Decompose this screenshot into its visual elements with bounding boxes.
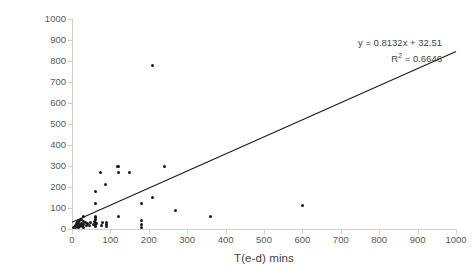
- x-tick-label: 700: [324, 234, 358, 245]
- x-tick-label: 400: [209, 234, 243, 245]
- x-axis-title: T(e-d) mins: [72, 252, 456, 264]
- x-tick-label: 300: [170, 234, 204, 245]
- regression-annotation: y = 0.8132x + 32.51 R2 = 0.6646: [296, 36, 442, 65]
- r-squared-value: = 0.6646: [402, 53, 442, 64]
- x-tick-label: 800: [362, 234, 396, 245]
- x-tick-label: 500: [247, 234, 281, 245]
- x-tick-label: 1000: [439, 234, 473, 245]
- x-tick-label: 0: [55, 234, 89, 245]
- regression-equation: y = 0.8132x + 32.51: [296, 36, 442, 49]
- x-tick-label: 200: [132, 234, 166, 245]
- x-tick-label: 100: [93, 234, 127, 245]
- x-tick-label: 900: [401, 234, 435, 245]
- r-squared: R2 = 0.6646: [296, 49, 442, 65]
- scatter-chart: T(t-e) mins 0100200300400500600700800900…: [0, 0, 476, 277]
- x-tick-label: 600: [285, 234, 319, 245]
